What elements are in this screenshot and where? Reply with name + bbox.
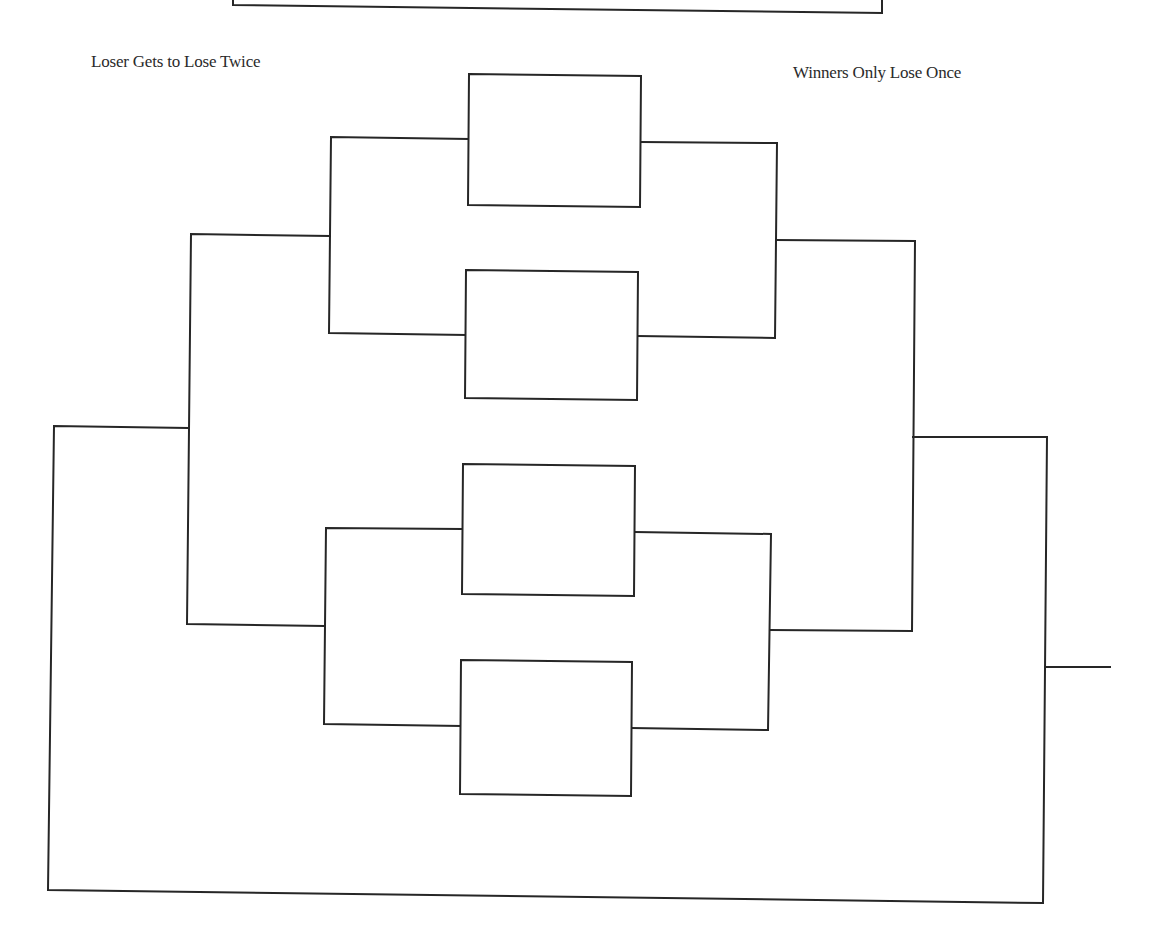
connector-r1-left-bottom (324, 528, 463, 726)
connector-r1-right-top (638, 142, 777, 338)
match-box-box-1 (468, 74, 641, 207)
winner-bracket-label: Winners Only Lose Once (793, 63, 961, 83)
match-box-box-2 (465, 270, 638, 400)
loser-bracket-label: Loser Gets to Lose Twice (91, 52, 260, 72)
connector-r1-right-bottom (632, 532, 771, 730)
match-box-box-4 (460, 660, 632, 796)
match-box-box-3 (462, 464, 635, 596)
connector-r2-left (187, 234, 330, 626)
bracket-svg (0, 0, 1165, 949)
match-boxes (460, 74, 641, 796)
top-partial-box (233, 0, 882, 13)
bracket-diagram: Loser Gets to Lose Twice Winners Only Lo… (0, 0, 1165, 949)
connector-r1-left-top (329, 137, 469, 335)
connector-r2-right (770, 240, 915, 631)
